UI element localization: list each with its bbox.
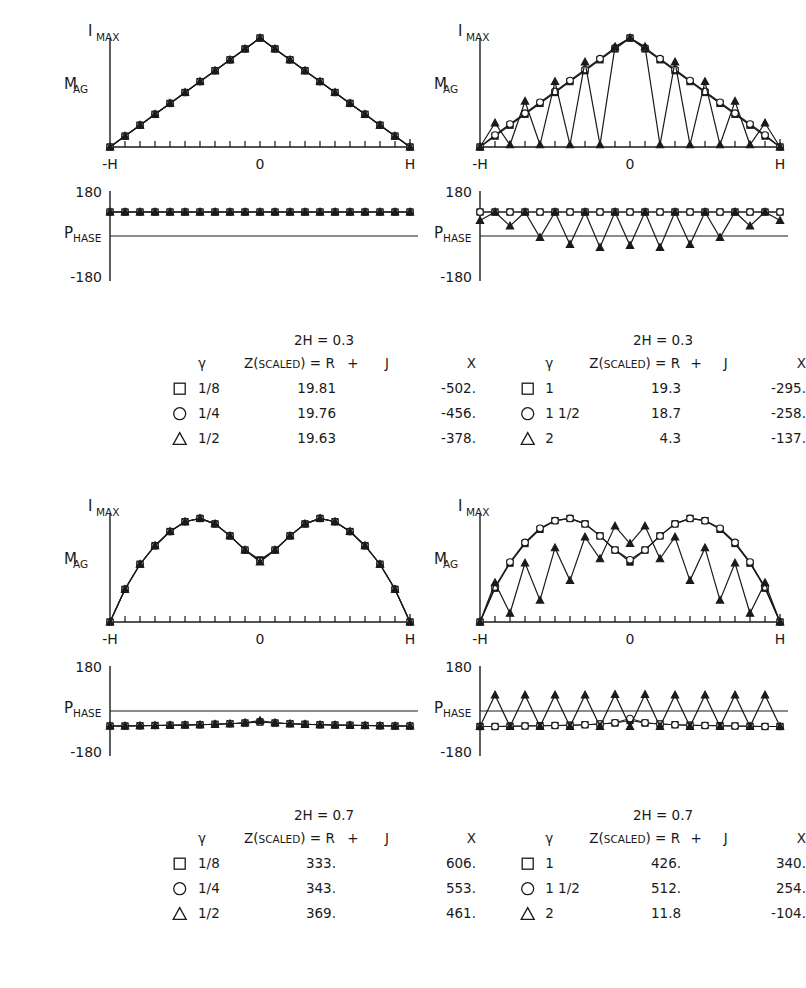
legend-symbol-square xyxy=(520,856,537,871)
x-tick-label-right: H xyxy=(405,156,416,172)
resistance-value: 512. xyxy=(589,876,681,901)
data-point-triangle xyxy=(686,577,693,584)
data-point-circle xyxy=(747,559,754,566)
data-point-circle xyxy=(612,547,619,554)
resistance-value: 19.81 xyxy=(244,376,336,401)
plus-spacer xyxy=(681,376,711,401)
data-point-circle xyxy=(477,209,484,216)
legend-symbol-cell xyxy=(172,901,194,926)
legend-symbol-cell xyxy=(520,426,541,451)
legend-symbol-cell xyxy=(172,401,194,426)
resistance-value: 19.63 xyxy=(244,426,336,451)
x-header: X xyxy=(404,357,476,377)
z-expression-header: Z(SCALED) = R xyxy=(589,357,681,377)
y-tick-label-180: 180 xyxy=(445,184,472,200)
gamma-value: 1/2 xyxy=(194,426,244,451)
axis-label-phase: P xyxy=(434,224,443,242)
data-point-circle xyxy=(507,121,514,128)
panel-top-left: IMAXMAG-H0H180-180PHASE xyxy=(62,22,432,291)
plus-spacer xyxy=(336,401,370,426)
reactance-value: 553. xyxy=(404,876,476,901)
z-expression-header: Z(SCALED) = R xyxy=(244,357,336,377)
legend-symbol-cell xyxy=(520,901,541,926)
axis-label-imax-sub: MAX xyxy=(466,506,489,518)
data-point-triangle xyxy=(521,559,528,566)
series-line-triangle xyxy=(480,38,780,147)
axis-label-imax: I xyxy=(88,22,92,40)
data-point-circle xyxy=(687,209,694,216)
legend-table: γZ(SCALED) = R+JX1/8333.606.1/4343.553.1… xyxy=(172,832,476,927)
legend-symbol-cell xyxy=(172,376,194,401)
data-point-triangle xyxy=(686,241,693,248)
series-line-circle xyxy=(480,518,780,622)
gamma-value: 1/4 xyxy=(194,401,244,426)
axis-label-mag-sub: AG xyxy=(443,558,458,570)
data-point-circle xyxy=(672,521,679,528)
plus-spacer xyxy=(681,426,711,451)
data-point-triangle xyxy=(491,691,498,698)
x-header: X xyxy=(740,832,806,852)
axis-label-phase-sub: HASE xyxy=(73,232,101,244)
data-point-triangle xyxy=(596,244,603,251)
data-point-circle xyxy=(537,209,544,216)
legend-symbol-cell xyxy=(172,851,194,876)
data-point-triangle xyxy=(566,577,573,584)
data-point-circle xyxy=(597,209,604,216)
reactance-value: 340. xyxy=(740,851,806,876)
data-point-circle xyxy=(702,517,709,524)
data-point-triangle xyxy=(566,141,573,148)
plus-header: + xyxy=(681,832,711,852)
resistance-value: 19.76 xyxy=(244,401,336,426)
data-point-circle xyxy=(492,723,499,730)
plus-header: + xyxy=(681,357,711,377)
reactance-value: 606. xyxy=(404,851,476,876)
gamma-value: 1 1/2 xyxy=(541,401,589,426)
j-header: J xyxy=(370,832,404,852)
series-line-circle xyxy=(110,38,410,147)
data-point-triangle xyxy=(581,533,588,540)
data-point-circle xyxy=(567,209,574,216)
data-point-triangle xyxy=(731,691,738,698)
data-point-triangle xyxy=(701,691,708,698)
y-tick-label-neg180: -180 xyxy=(70,744,102,760)
panel-bottom-right: IMAXMAG-H0H180-180PHASE xyxy=(432,497,802,766)
legend-table: γZ(SCALED) = R+JX1/819.81-502.1/419.76-4… xyxy=(172,357,476,452)
data-point-triangle xyxy=(611,691,618,698)
data-point-triangle xyxy=(716,596,723,603)
x-header: X xyxy=(404,832,476,852)
legend-row: 1/219.63-378. xyxy=(172,426,476,451)
data-point-triangle xyxy=(701,78,708,85)
j-spacer xyxy=(711,876,740,901)
legend-header-row: γZ(SCALED) = R+JX xyxy=(172,832,476,852)
reactance-value: -378. xyxy=(404,426,476,451)
data-point-triangle xyxy=(656,244,663,251)
resistance-value: 333. xyxy=(244,851,336,876)
condition-label: 2H = 0.3 xyxy=(172,334,476,348)
data-point-circle xyxy=(597,55,604,62)
phase-plot: 180-180PHASE xyxy=(432,656,802,766)
legend-symbol-header xyxy=(172,832,194,852)
data-point-circle xyxy=(687,515,694,522)
resistance-value: 4.3 xyxy=(589,426,681,451)
data-point-triangle xyxy=(641,522,648,529)
legend-symbol-square xyxy=(520,381,537,396)
legend-bottom-left: 2H = 0.7γZ(SCALED) = R+JX1/8333.606.1/43… xyxy=(172,809,476,926)
gamma-value: 2 xyxy=(541,426,589,451)
data-point-triangle xyxy=(716,234,723,241)
data-point-triangle xyxy=(596,141,603,148)
legend-symbol-triangle xyxy=(172,431,189,446)
legend-symbol-cell xyxy=(172,426,194,451)
j-spacer xyxy=(370,401,404,426)
gamma-header: γ xyxy=(194,357,244,377)
legend-header-row: γZ(SCALED) = R+JX xyxy=(172,357,476,377)
data-point-circle xyxy=(552,517,559,524)
gamma-header: γ xyxy=(541,832,589,852)
data-point-triangle xyxy=(581,58,588,65)
j-spacer xyxy=(370,376,404,401)
data-point-triangle xyxy=(731,97,738,104)
legend-symbol-header xyxy=(520,357,541,377)
gamma-value: 1/4 xyxy=(194,876,244,901)
legend-row: 119.3-295. xyxy=(520,376,806,401)
magnitude-plot: IMAXMAG-H0H xyxy=(432,22,802,181)
series-line-triangle xyxy=(110,38,410,147)
